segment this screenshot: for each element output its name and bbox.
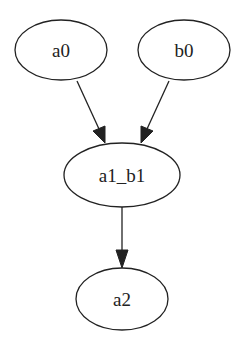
edge-b0-to-a1_b1: [141, 81, 169, 143]
node-a1_b1[interactable]: a1_b1: [64, 143, 180, 207]
node-a2[interactable]: a2: [76, 268, 168, 330]
node-label: a1_b1: [99, 165, 145, 186]
node-label: a0: [52, 40, 70, 61]
node-b0[interactable]: b0: [138, 20, 230, 80]
edge-a0-to-a1_b1: [77, 81, 105, 143]
node-a0[interactable]: a0: [15, 20, 107, 80]
node-label: b0: [175, 40, 194, 61]
graph-canvas: a0 b0 a1_b1 a2: [0, 0, 247, 343]
edge-a1_b1-to-a2: [116, 207, 128, 268]
arrowhead-icon: [93, 126, 105, 143]
node-label: a2: [113, 289, 131, 310]
arrowhead-icon: [141, 126, 153, 143]
arrowhead-icon: [116, 250, 128, 268]
